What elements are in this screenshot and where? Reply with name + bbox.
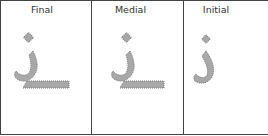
dhal-initial-glyph [184, 1, 268, 135]
panel-final: Final [1, 1, 92, 134]
letter-forms-grid: Final Medial Initial [0, 0, 268, 135]
panel-medial: Medial [92, 1, 184, 134]
dhal-medial-glyph [92, 1, 184, 135]
dhal-final-glyph [1, 1, 92, 135]
panel-initial: Initial [184, 1, 268, 134]
